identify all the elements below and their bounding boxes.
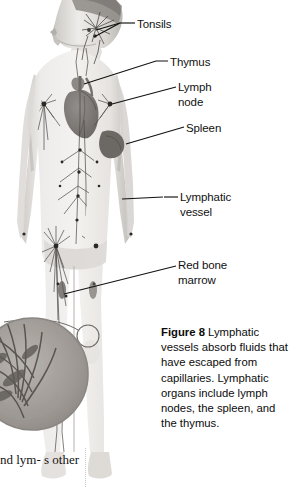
- figure-page: Tonsils Thymus Lymph node Spleen Lymphat…: [0, 0, 298, 487]
- red-bone-marrow-site: [58, 281, 97, 299]
- tonsil-node: [87, 28, 91, 32]
- label-thymus: Thymus: [170, 55, 210, 70]
- lymph-node-inguinal-left: [54, 244, 59, 249]
- lymph-node-inguinal-right: [94, 244, 99, 249]
- lymph-node-axillary-left: [42, 102, 47, 107]
- label-lymph-node: Lymph node: [178, 80, 212, 109]
- label-lymphatic-vessel: Lymphatic vessel: [180, 190, 231, 219]
- label-tonsils: Tonsils: [137, 17, 171, 32]
- label-red-bone-marrow: Red bone marrow: [178, 258, 227, 287]
- figure-caption: Figure 8 Lymphatic vessels absorb fluids…: [161, 325, 293, 431]
- column-divider-rule: [85, 448, 86, 487]
- leader-spleen: [126, 127, 184, 144]
- label-spleen: Spleen: [186, 121, 221, 136]
- figure-caption-label: Figure 8: [161, 326, 205, 338]
- page-body-text-fragment: nd lym- s other: [0, 452, 80, 468]
- figure-caption-text: Lymphatic vessels absorb fluids that hav…: [161, 326, 288, 429]
- lymph-node-axillary-right: [108, 102, 113, 107]
